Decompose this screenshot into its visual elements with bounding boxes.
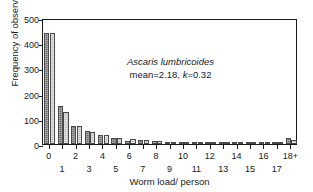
bar-fitted-7 xyxy=(144,140,149,144)
bar-observed-3 xyxy=(85,131,90,144)
x-tick-label: 0 xyxy=(37,151,61,161)
bar-fitted-16 xyxy=(265,142,270,144)
x-tick-label: 13 xyxy=(211,164,235,174)
y-tick-mark xyxy=(39,20,43,21)
bar-fitted-0 xyxy=(50,33,55,144)
y-tick-label: 300 xyxy=(17,66,39,75)
y-tick-mark xyxy=(39,146,43,147)
y-tick-label: 400 xyxy=(17,41,39,50)
x-tick-mark xyxy=(170,145,171,149)
x-axis-title: Worm load/ person xyxy=(42,176,297,187)
x-tick-mark xyxy=(290,145,291,149)
x-tick-label: 5 xyxy=(104,164,128,174)
x-tick-label: 6 xyxy=(117,151,141,161)
x-tick-label: 11 xyxy=(184,164,208,174)
bar-observed-14 xyxy=(232,142,237,144)
x-tick-mark xyxy=(156,145,157,149)
x-tick-mark xyxy=(89,145,90,149)
x-tick-label: 4 xyxy=(90,151,114,161)
y-tick-label: 200 xyxy=(17,92,39,101)
x-tick-label: 12 xyxy=(198,151,222,161)
bar-observed-17 xyxy=(272,142,277,144)
y-tick-mark xyxy=(39,121,43,122)
x-tick-mark xyxy=(210,145,211,149)
x-tick-label: 7 xyxy=(131,164,155,174)
bar-observed-10 xyxy=(179,142,184,144)
x-tick-label: 10 xyxy=(171,151,195,161)
y-tick-mark xyxy=(39,45,43,46)
bar-observed-5 xyxy=(111,138,116,144)
x-tick-mark xyxy=(250,145,251,149)
x-tick-label: 14 xyxy=(225,151,249,161)
x-tick-mark xyxy=(143,145,144,149)
bar-fitted-4 xyxy=(104,135,109,144)
bar-fitted-15 xyxy=(251,142,256,144)
x-tick-mark xyxy=(183,145,184,149)
x-tick-mark xyxy=(76,145,77,149)
bar-fitted-5 xyxy=(117,138,122,144)
bar-observed-4 xyxy=(98,135,103,144)
x-tick-label: 15 xyxy=(238,164,262,174)
y-tick-label: 100 xyxy=(17,117,39,126)
x-tick-label: 3 xyxy=(77,164,101,174)
bar-fitted-1 xyxy=(63,112,68,144)
x-tick-mark xyxy=(49,145,50,149)
bar-observed-16 xyxy=(259,142,264,144)
bar-observed-13 xyxy=(219,142,224,144)
x-tick-mark xyxy=(129,145,130,149)
y-tick-mark xyxy=(39,96,43,97)
x-tick-mark xyxy=(223,145,224,149)
x-tick-label: 17 xyxy=(265,164,289,174)
x-tick-mark xyxy=(237,145,238,149)
bar-fitted-11 xyxy=(198,142,203,144)
bar-fitted-3 xyxy=(90,132,95,144)
y-tick-label: 500 xyxy=(17,16,39,25)
bar-fitted-18+ xyxy=(291,140,296,144)
bar-observed-1 xyxy=(58,106,63,144)
bar-observed-7 xyxy=(138,140,143,144)
bar-observed-6 xyxy=(125,141,130,144)
bar-observed-12 xyxy=(205,142,210,144)
bar-fitted-9 xyxy=(171,142,176,144)
bar-fitted-8 xyxy=(157,141,162,144)
y-tick-label: 0 xyxy=(17,142,39,151)
plot-area: Ascaris lumbricoides mean=2.18, k=0.32 0… xyxy=(42,19,297,145)
bar-observed-8 xyxy=(152,141,157,144)
bar-observed-18+ xyxy=(286,138,291,144)
x-tick-label: 2 xyxy=(64,151,88,161)
bar-observed-15 xyxy=(246,142,251,144)
x-tick-mark xyxy=(196,145,197,149)
bar-fitted-13 xyxy=(224,142,229,144)
x-tick-mark xyxy=(277,145,278,149)
bar-fitted-12 xyxy=(211,142,216,144)
bar-fitted-2 xyxy=(77,126,82,144)
bar-fitted-14 xyxy=(238,142,243,144)
x-tick-label: 16 xyxy=(251,151,275,161)
bar-observed-9 xyxy=(165,142,170,144)
chart-figure: Frequency of observation Ascaris lumbric… xyxy=(0,0,313,192)
y-tick-mark xyxy=(39,70,43,71)
plot-inner xyxy=(43,20,296,144)
bar-fitted-10 xyxy=(184,142,189,144)
bar-fitted-6 xyxy=(130,139,135,144)
x-tick-mark xyxy=(62,145,63,149)
x-tick-label: 9 xyxy=(158,164,182,174)
x-tick-mark xyxy=(102,145,103,149)
x-tick-label: 8 xyxy=(144,151,168,161)
x-tick-mark xyxy=(263,145,264,149)
x-tick-mark xyxy=(116,145,117,149)
x-tick-label: 1 xyxy=(50,164,74,174)
bar-observed-0 xyxy=(44,33,49,144)
bar-observed-2 xyxy=(71,126,76,144)
bar-fitted-17 xyxy=(278,142,283,144)
bar-observed-11 xyxy=(192,142,197,144)
x-tick-label: 18+ xyxy=(278,151,302,161)
